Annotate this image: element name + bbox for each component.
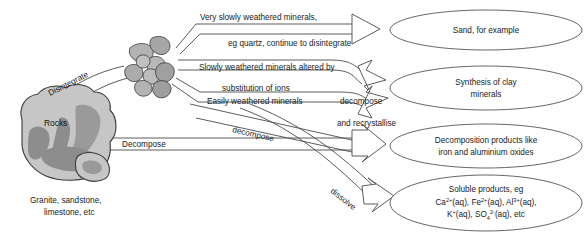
arrowhead-sand [352, 14, 380, 44]
rock-label: Rocks [44, 118, 67, 128]
label-slowly-weathered: Slowly weathered minerals altered by [199, 63, 336, 72]
ion-so4-state: (aq), etc [495, 210, 525, 219]
ion-al-state: (aq), [520, 198, 537, 207]
outcome-clay-label-line1: Synthesis of clay [455, 78, 517, 87]
label-substitution-of-ions: substitution of ions [222, 84, 290, 93]
ion-ca-symbol: Ca [435, 198, 446, 207]
outcome-soluble-label-line1: Soluble products, eg [449, 185, 524, 194]
ion-ca-state: (aq), [452, 198, 469, 207]
ion-k-state: (aq), [456, 210, 473, 219]
outcome-soluble-ellipse [390, 175, 582, 231]
outcome-decomposition-label-line2: iron and aluminium oxides [438, 148, 533, 157]
ion-fe-state: (aq), [487, 198, 504, 207]
flow-decompose-diagonal [190, 104, 352, 152]
label-very-slowly-weathered: Very slowly weathered minerals, [200, 13, 317, 22]
outcome-decomposition-ellipse [390, 124, 582, 168]
outcome-clay-label-line2: minerals [471, 90, 502, 99]
outcome-sand-label: Sand, for example [453, 26, 520, 35]
label-decompose-diagonal: decompose [232, 125, 276, 143]
diagram-canvas: Very slowly weathered minerals, eg quart… [0, 0, 588, 235]
outcome-clay-ellipse [390, 66, 582, 110]
outcome-decomposition-label-line1: Decomposition products like [435, 136, 538, 145]
arrowhead-soluble [362, 178, 394, 212]
rock-illustration [21, 85, 116, 182]
arrowhead-clay-upper [358, 60, 386, 92]
rock-caption-line1: Granite, sandstone, [30, 196, 101, 205]
rock-caption-line2: limestone, etc [44, 208, 95, 217]
label-decompose-main: Decompose [122, 140, 166, 149]
weathering-diagram: Very slowly weathered minerals, eg quart… [0, 0, 588, 235]
ion-so4-symbol: SO [475, 210, 487, 219]
label-decompose-inline: decompose [340, 97, 383, 106]
label-easily-weathered: Easily weathered minerals [207, 97, 303, 106]
label-eg-quartz: eg quartz, continue to disintegrate [228, 39, 352, 48]
ion-fe-symbol: Fe [471, 198, 481, 207]
ion-so4-subscript: 4 [487, 215, 490, 221]
label-dissolve-diagonal: dissolve [329, 186, 358, 212]
label-and-recrystallise: and recrystallise [337, 119, 397, 128]
arrowhead-decomposition [352, 124, 386, 162]
pebble-cluster [125, 36, 175, 97]
